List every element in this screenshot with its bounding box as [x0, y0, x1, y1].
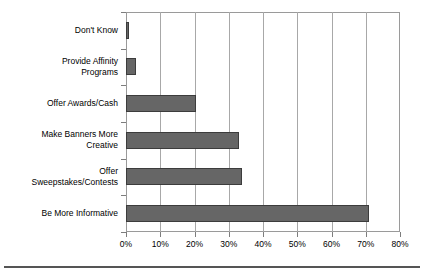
- category-axis-labels: Don't KnowProvide Affinity ProgramsOffer…: [0, 12, 118, 232]
- bar: [126, 58, 136, 75]
- bar-row: [126, 12, 400, 49]
- category-label: Offer Awards/Cash: [0, 98, 118, 109]
- bar: [126, 205, 369, 222]
- x-axis-tick: [195, 232, 196, 237]
- bar-row: [126, 159, 400, 196]
- bar-row: [126, 85, 400, 122]
- category-label: Provide Affinity Programs: [0, 56, 118, 78]
- bar: [126, 22, 129, 39]
- x-axis-tick: [332, 232, 333, 237]
- bar-row: [126, 195, 400, 232]
- bar: [126, 132, 239, 149]
- x-axis-tick-labels: 0%10%20%30%40%50%60%70%80%: [0, 239, 424, 253]
- category-label: Be More Informative: [0, 208, 118, 219]
- category-label: Offer Sweepstakes/Contests: [0, 166, 118, 188]
- horizontal-bar-chart: Don't KnowProvide Affinity ProgramsOffer…: [0, 0, 424, 278]
- bar-row: [126, 122, 400, 159]
- category-label: Don't Know: [0, 25, 118, 36]
- bar: [126, 95, 196, 112]
- category-label: Make Banners More Creative: [0, 129, 118, 151]
- x-axis-tick: [297, 232, 298, 237]
- bar: [126, 168, 242, 185]
- x-axis-tick: [366, 232, 367, 237]
- bottom-divider-rule: [4, 266, 420, 268]
- x-axis-tick: [263, 232, 264, 237]
- x-axis-tick: [160, 232, 161, 237]
- x-axis-tick: [400, 232, 401, 237]
- bar-series: [126, 12, 400, 232]
- bar-row: [126, 49, 400, 86]
- x-axis-tick: [126, 232, 127, 237]
- x-axis-tick: [229, 232, 230, 237]
- x-tick-label: 80%: [380, 239, 420, 250]
